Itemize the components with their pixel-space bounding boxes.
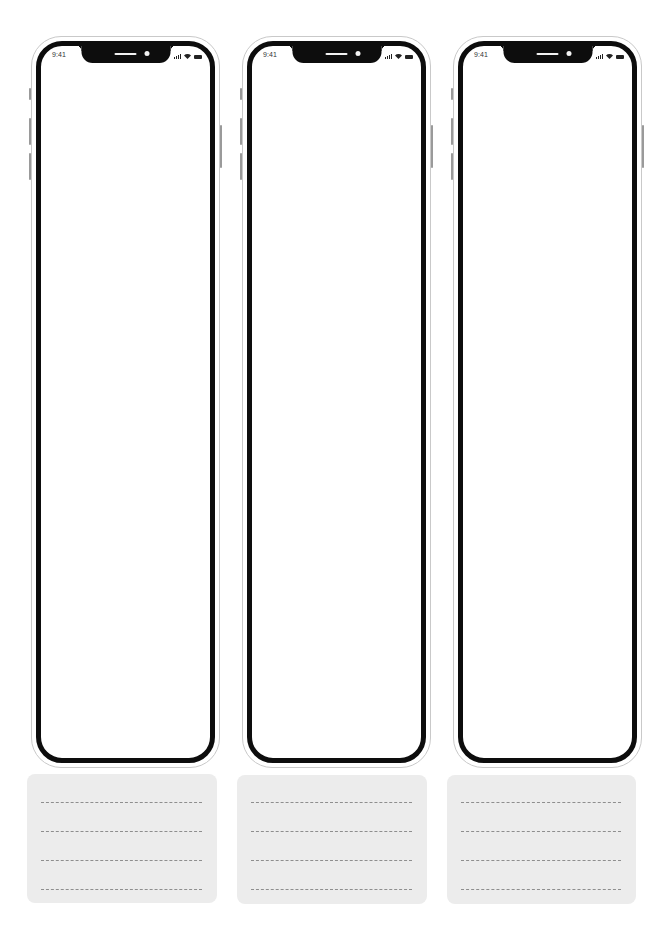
phone-frame-3: 9:41 [453,36,642,768]
phone-screen[interactable]: 9:41 [247,41,426,763]
note-line[interactable] [461,860,621,861]
notch [81,45,170,63]
status-time: 9:41 [52,51,66,58]
battery-icon [194,55,202,59]
note-line[interactable] [41,889,202,890]
status-icons [596,53,624,59]
notes-card-2 [237,775,427,904]
phone-frame-2: 9:41 [242,36,431,768]
note-line[interactable] [461,889,621,890]
battery-icon [405,55,413,59]
speaker-grille [536,53,558,55]
power-button [431,125,433,168]
note-line[interactable] [251,831,412,832]
front-camera [355,51,360,56]
notes-card-1 [27,774,217,903]
status-icons [385,53,413,59]
note-line[interactable] [251,802,412,803]
phone-screen[interactable]: 9:41 [458,41,637,763]
note-line[interactable] [461,802,621,803]
notch [292,45,381,63]
battery-icon [616,55,624,59]
note-line[interactable] [251,860,412,861]
speaker-grille [325,53,347,55]
notes-card-3 [447,775,636,904]
note-line[interactable] [461,831,621,832]
power-button [642,125,644,168]
front-camera [144,51,149,56]
phone-shell: 9:41 [31,36,220,768]
status-icons [174,53,202,59]
cellular-signal-icon [596,54,603,59]
status-time: 9:41 [474,51,488,58]
speaker-grille [114,53,136,55]
phone-screen[interactable]: 9:41 [36,41,215,763]
phone-shell: 9:41 [242,36,431,768]
wifi-icon [184,54,191,59]
wifi-icon [395,54,402,59]
phone-shell: 9:41 [453,36,642,768]
note-line[interactable] [41,802,202,803]
note-line[interactable] [41,831,202,832]
status-time: 9:41 [263,51,277,58]
cellular-signal-icon [174,54,181,59]
phone-frame-1: 9:41 [31,36,220,768]
front-camera [566,51,571,56]
cellular-signal-icon [385,54,392,59]
wifi-icon [606,54,613,59]
note-line[interactable] [251,889,412,890]
power-button [220,125,222,168]
note-line[interactable] [41,860,202,861]
notch [503,45,592,63]
